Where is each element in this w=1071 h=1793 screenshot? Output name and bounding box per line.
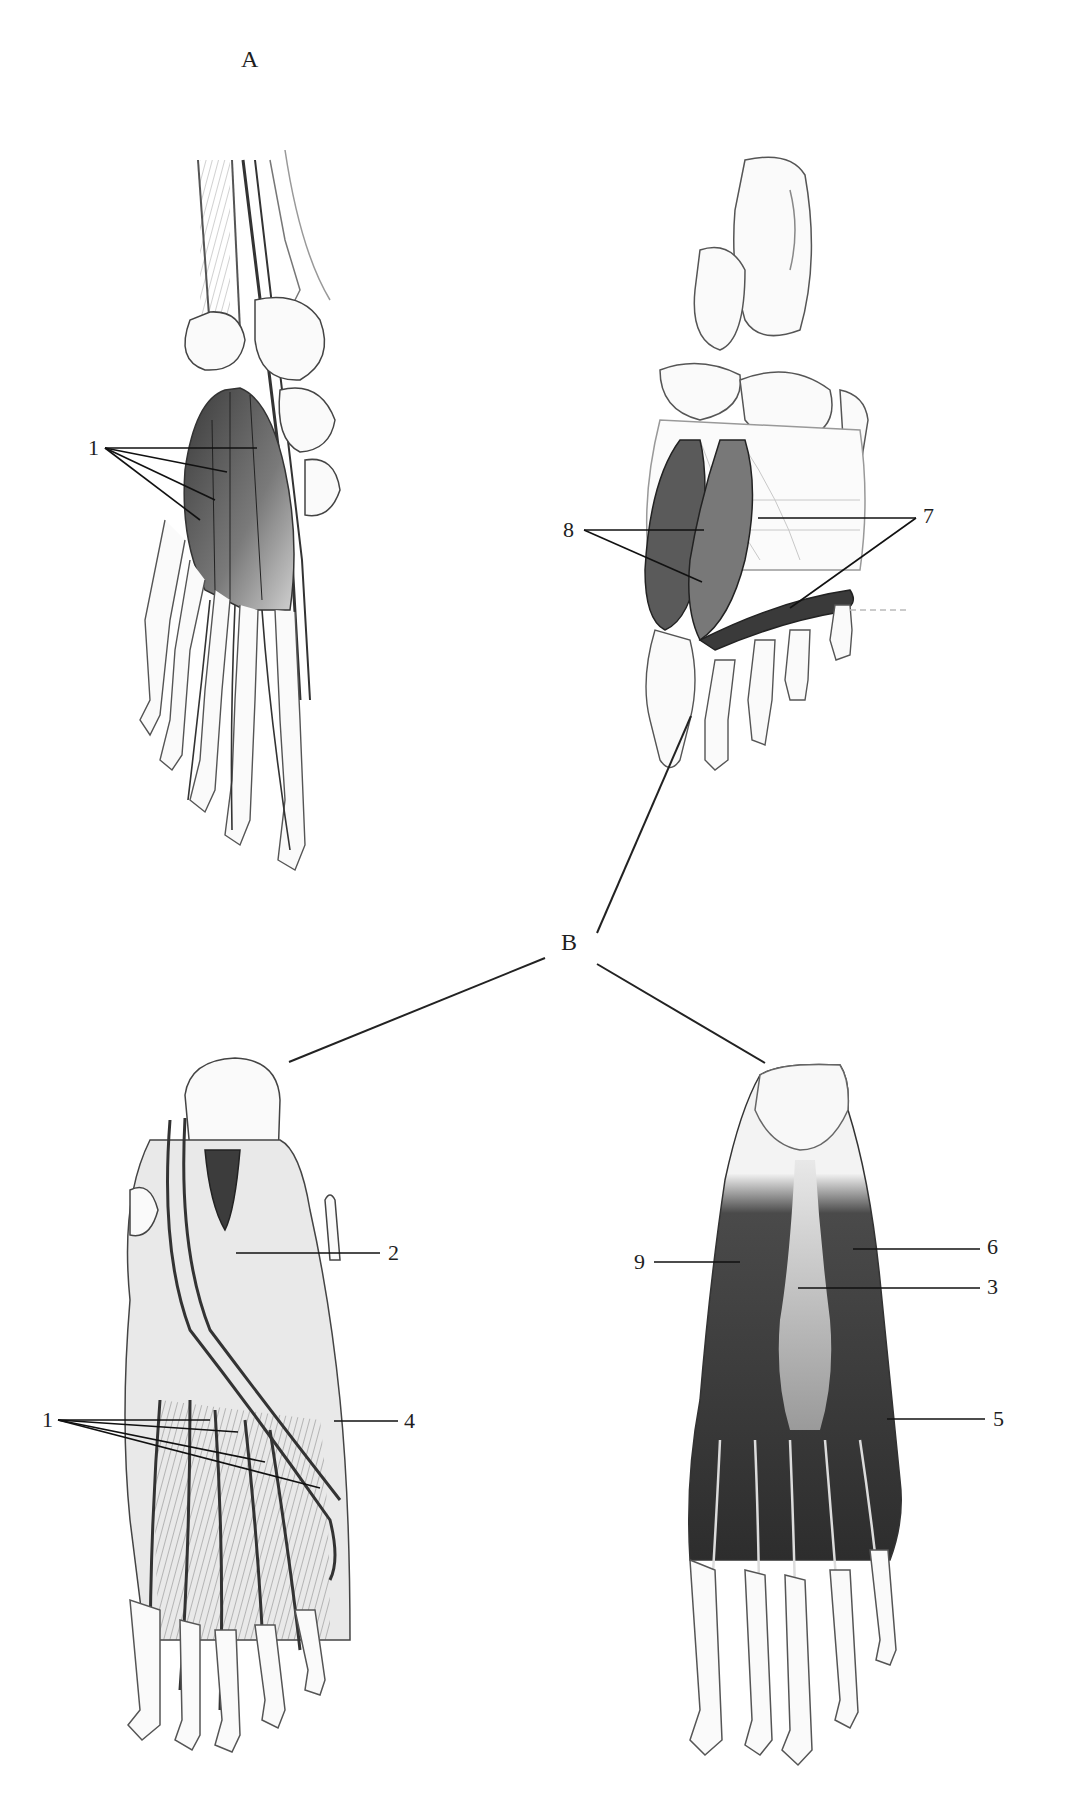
panel-b-connector-lines [289, 716, 765, 1063]
label-5: 5 [993, 1408, 1004, 1430]
label-8: 8 [563, 519, 574, 541]
panel-label-b: B [561, 931, 577, 953]
label-9: 9 [634, 1251, 645, 1273]
foot-view-top-right [645, 157, 910, 770]
anatomy-figure [0, 0, 1071, 1793]
label-1-bottom: 1 [42, 1409, 53, 1431]
label-7: 7 [923, 505, 934, 527]
label-3: 3 [987, 1276, 998, 1298]
foot-view-top-left [140, 150, 340, 870]
label-4: 4 [404, 1410, 415, 1432]
foot-view-bottom-right [689, 1064, 902, 1765]
label-1-top: 1 [88, 437, 99, 459]
label-2: 2 [388, 1242, 399, 1264]
label-6: 6 [987, 1236, 998, 1258]
foot-view-bottom-left [125, 1058, 350, 1752]
panel-label-a: A [241, 48, 258, 70]
